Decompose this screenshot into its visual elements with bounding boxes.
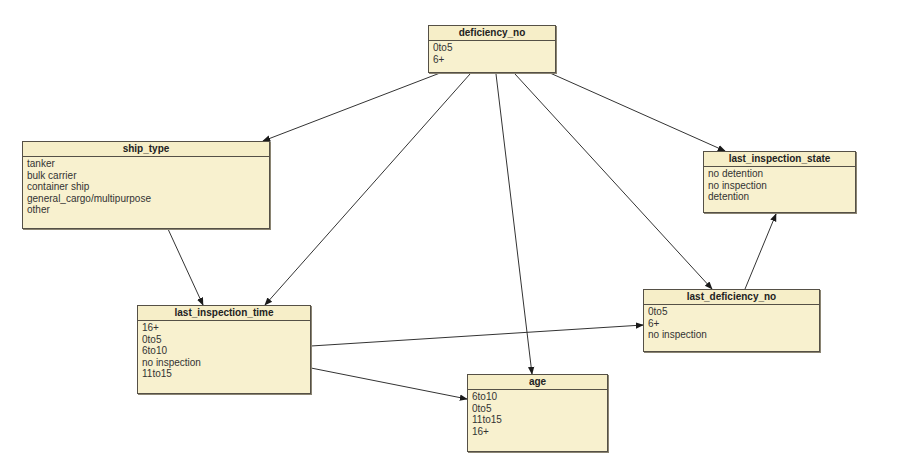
node-ship-type[interactable]: ship_type tanker bulk carrier container …	[22, 141, 270, 229]
node-title: last_inspection_time	[138, 306, 310, 321]
node-title: last_deficiency_no	[644, 290, 819, 305]
node-state: no inspection	[708, 180, 851, 192]
node-title: age	[468, 375, 607, 390]
node-state: detention	[708, 191, 851, 203]
node-states: 16+ 0to5 6to10 no inspection 11to15	[138, 321, 310, 381]
edge-last_deficiency_no-last_inspection_state	[745, 214, 776, 289]
edge-deficiency_no-last_deficiency_no	[515, 74, 712, 289]
edge-deficiency_no-ship_type	[263, 73, 440, 141]
edge-deficiency_no-age	[496, 74, 532, 374]
node-states: no detention no inspection detention	[704, 167, 855, 204]
edge-deficiency_no-last_inspection_time	[265, 74, 470, 305]
node-state: 16+	[142, 322, 306, 334]
node-title: ship_type	[23, 142, 269, 157]
node-state: no inspection	[648, 329, 815, 341]
edge-deficiency_no-last_inspection_state	[550, 73, 725, 151]
node-deficiency-no[interactable]: deficiency_no 0to5 6+	[428, 25, 556, 73]
node-states: 6to10 0to5 11to15 16+	[468, 390, 607, 438]
edge-last_inspection_time-age	[311, 368, 467, 399]
edge-last_inspection_time-last_deficiency_no	[311, 325, 643, 346]
node-state: 11to15	[142, 368, 306, 380]
node-states: 0to5 6+ no inspection	[644, 305, 819, 342]
node-state: no detention	[708, 168, 851, 180]
node-state: 0to5	[142, 334, 306, 346]
node-states: tanker bulk carrier container ship gener…	[23, 157, 269, 217]
node-state: other	[27, 204, 265, 216]
node-state: 11to15	[472, 414, 603, 426]
node-last-inspection-time[interactable]: last_inspection_time 16+ 0to5 6to10 no i…	[137, 305, 311, 394]
node-state: 6to10	[472, 391, 603, 403]
node-state: bulk carrier	[27, 170, 265, 182]
node-state: 16+	[472, 426, 603, 438]
node-state: 6to10	[142, 345, 306, 357]
edge-ship_type-last_inspection_time	[168, 229, 203, 305]
node-state: 6+	[648, 318, 815, 330]
node-state: general_cargo/multipurpose	[27, 193, 265, 205]
node-title: deficiency_no	[429, 26, 555, 41]
node-last-inspection-state[interactable]: last_inspection_state no detention no in…	[703, 151, 856, 213]
node-state: 0to5	[648, 306, 815, 318]
node-state: tanker	[27, 158, 265, 170]
node-age[interactable]: age 6to10 0to5 11to15 16+	[467, 374, 608, 452]
node-states: 0to5 6+	[429, 41, 555, 66]
node-state: 0to5	[433, 42, 551, 54]
node-state: 0to5	[472, 403, 603, 415]
node-last-deficiency-no[interactable]: last_deficiency_no 0to5 6+ no inspection	[643, 289, 820, 352]
node-state: container ship	[27, 181, 265, 193]
node-state: 6+	[433, 54, 551, 66]
node-title: last_inspection_state	[704, 152, 855, 167]
node-state: no inspection	[142, 357, 306, 369]
